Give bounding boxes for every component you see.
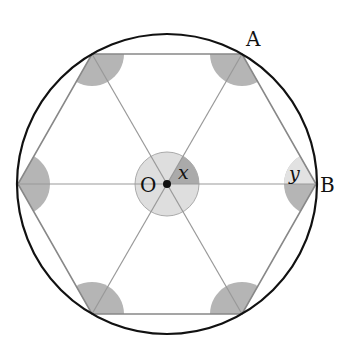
label-angle-x: x bbox=[178, 161, 189, 183]
label-vertex-A: A bbox=[245, 27, 261, 51]
label-angle-y: y bbox=[288, 162, 300, 184]
label-center-O: O bbox=[140, 173, 156, 197]
hexagon-circle-diagram: O x A B y bbox=[0, 0, 355, 346]
center-point bbox=[163, 180, 171, 188]
label-vertex-B: B bbox=[320, 173, 335, 197]
